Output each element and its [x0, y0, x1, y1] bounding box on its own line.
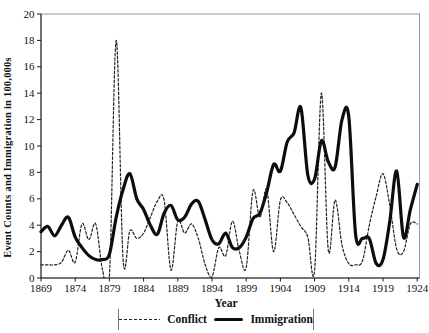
- y-tick-label: 20: [24, 8, 36, 20]
- y-tick-label: 18: [24, 34, 36, 46]
- y-tick-label: 8: [29, 166, 35, 178]
- y-tick-label: 14: [24, 87, 36, 99]
- y-tick-label: 0: [29, 272, 35, 284]
- x-tick-label: 1889: [167, 282, 190, 294]
- series-group: [41, 40, 417, 294]
- legend-label-conflict: Conflict: [167, 314, 207, 326]
- x-tick-label: 1879: [98, 282, 121, 294]
- x-tick-label: 1919: [372, 282, 395, 294]
- conflict-line: [41, 40, 417, 294]
- x-tick-label: 1909: [304, 282, 327, 294]
- x-tick-label: 1874: [64, 282, 87, 294]
- x-tick-label: 1884: [133, 282, 156, 294]
- immigration-line: [41, 107, 417, 266]
- y-tick-label: 2: [29, 245, 35, 257]
- x-axis-label: Year: [126, 297, 326, 309]
- x-tick-label: 1899: [235, 282, 258, 294]
- y-tick-label: 12: [24, 113, 35, 125]
- x-tick-label: 1894: [201, 282, 224, 294]
- x-tick-label: 1924: [406, 282, 429, 294]
- chart-figure: 1869187418791884188918941899190419091914…: [0, 0, 429, 333]
- x-tick-label: 1904: [269, 282, 292, 294]
- y-tick-label: 4: [29, 219, 35, 231]
- y-axis-title: Event Counts and Immigration in 100,000s: [2, 43, 17, 273]
- x-tick-label: 1914: [338, 282, 361, 294]
- legend: Conflict Immigration: [118, 309, 314, 330]
- plot-area: 1869187418791884188918941899190419091914…: [0, 0, 429, 333]
- legend-label-immigration: Immigration: [250, 314, 313, 326]
- y-tick-label: 16: [24, 60, 36, 72]
- legend-sample-immigration-solid-line-icon: [214, 318, 243, 321]
- legend-sample-conflict-dashed-line-icon: [119, 319, 160, 320]
- y-tick-label: 10: [24, 140, 36, 152]
- y-tick-label: 6: [29, 192, 35, 204]
